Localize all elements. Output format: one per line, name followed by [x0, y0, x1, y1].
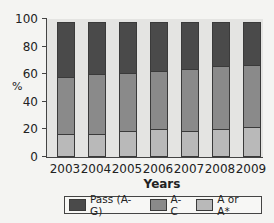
y-tick-mark: [42, 18, 47, 19]
legend-swatch: [196, 199, 213, 211]
plot-area: [46, 19, 263, 158]
y-tick-mark: [42, 101, 47, 102]
bar-2003: [57, 22, 75, 157]
bar-segment-a-c: [88, 74, 106, 133]
bar-2004: [88, 22, 106, 157]
bar-segment-a-c: [119, 73, 137, 131]
bar-segment-a-or-a-: [88, 134, 106, 157]
bar-2006: [150, 22, 168, 157]
bar-segment-pass-a-g-: [57, 22, 75, 77]
x-tick-label: 2003: [48, 162, 82, 176]
x-tick-label: 2005: [110, 162, 144, 176]
y-tick-label: 20: [8, 123, 38, 135]
legend-item: Pass (A-G): [69, 193, 141, 217]
bar-segment-pass-a-g-: [181, 22, 199, 69]
x-tick-label: 2006: [141, 162, 175, 176]
x-tick-label: 2004: [79, 162, 113, 176]
bar-segment-a-c: [212, 66, 230, 129]
y-tick-mark: [42, 128, 47, 129]
bar-segment-a-or-a-: [119, 131, 137, 157]
bar-segment-a-or-a-: [57, 134, 75, 157]
bar-2005: [119, 22, 137, 157]
legend-swatch: [150, 199, 167, 211]
bar-segment-a-or-a-: [181, 131, 199, 157]
bar-2009: [243, 22, 261, 157]
x-axis-title: Years: [142, 177, 182, 191]
bar-segment-a-c: [243, 65, 261, 127]
bar-segment-a-c: [181, 69, 199, 131]
bar-segment-a-or-a-: [243, 127, 261, 157]
legend-item: A or A*: [196, 193, 252, 217]
x-tick-label: 2007: [172, 162, 206, 176]
bar-2007: [181, 22, 199, 157]
y-tick-label: 40: [8, 96, 38, 108]
legend-label: A or A*: [217, 193, 252, 217]
y-tick-mark: [42, 73, 47, 74]
bar-segment-pass-a-g-: [119, 22, 137, 73]
y-tick-label: 100: [8, 13, 38, 25]
bar-segment-a-c: [57, 77, 75, 134]
bar-segment-pass-a-g-: [150, 22, 168, 72]
y-tick-label: 0: [8, 151, 38, 163]
y-axis-title: %: [12, 80, 22, 93]
x-tick-label: 2008: [203, 162, 237, 176]
x-tick-label: 2009: [234, 162, 268, 176]
legend-item: A-C: [150, 193, 188, 217]
legend: Pass (A-G)A-CA or A*: [64, 196, 262, 214]
bar-2008: [212, 22, 230, 157]
bar-segment-a-or-a-: [212, 129, 230, 157]
legend-label: Pass (A-G): [90, 193, 141, 217]
y-tick-label: 80: [8, 41, 38, 53]
bar-segment-a-c: [150, 71, 168, 129]
bar-segment-pass-a-g-: [88, 22, 106, 74]
y-tick-mark: [42, 156, 47, 157]
y-tick-mark: [42, 46, 47, 47]
bar-segment-pass-a-g-: [243, 22, 261, 65]
legend-swatch: [69, 199, 86, 211]
bar-segment-pass-a-g-: [212, 22, 230, 66]
bar-segment-a-or-a-: [150, 129, 168, 157]
y-tick-label: 60: [8, 68, 38, 80]
legend-label: A-C: [171, 193, 188, 217]
